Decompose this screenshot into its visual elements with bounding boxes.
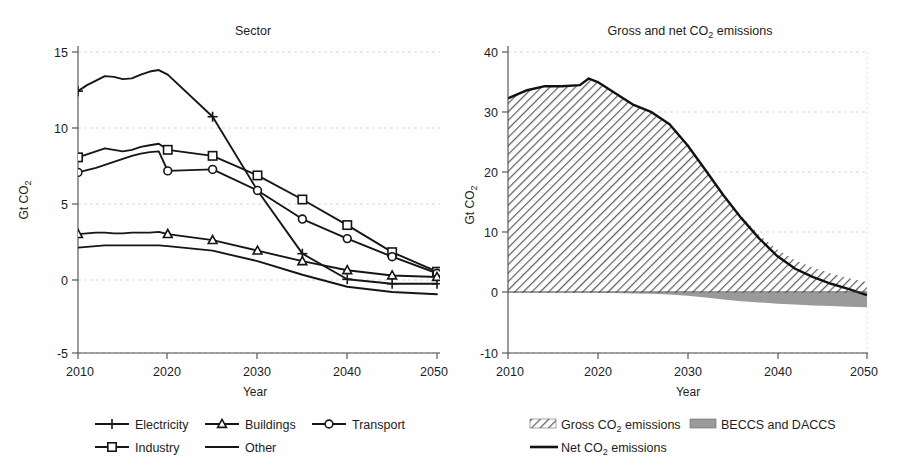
gross-net-x-axis-label: Year: [676, 385, 700, 399]
sector-marker-industry-2030: [253, 171, 261, 179]
sector-ytick-10: 10: [54, 122, 68, 136]
legend-marker-triangle: [218, 419, 227, 427]
sector-series-group: [73, 70, 442, 294]
sector-x-axis-label: Year: [243, 385, 267, 399]
sector-ytick-5: 5: [61, 198, 68, 212]
gross-net-chart-title: Gross and net CO2 emissions: [608, 24, 773, 40]
gross-net-series-group: [508, 78, 867, 307]
gross-net-title-pre: Gross and net CO: [608, 24, 709, 38]
gn-xtick-2020: 2020: [584, 365, 612, 379]
sector-marker-industry-2025: [208, 152, 216, 160]
sector-y-axis-label: Gt CO2: [17, 180, 33, 219]
sector-legend-label: Transport: [352, 418, 406, 432]
sector-marker-buildings-2040: [343, 266, 352, 274]
sector-legend: ElectricityBuildingsTransportIndustryOth…: [95, 418, 406, 455]
sector-marker-buildings-2020: [163, 230, 172, 238]
sector-ylabel-main: Gt CO: [17, 186, 31, 220]
sector-x-ticks: 2010 2020 2030 2040 2050: [66, 353, 448, 379]
sector-marker-buildings-2030: [253, 246, 262, 254]
legend-swatch-hatch: [530, 419, 556, 428]
sector-legend-label: Electricity: [135, 418, 189, 432]
sector-xtick-2020: 2020: [153, 365, 181, 379]
sector-marker-electricity-2010: [73, 86, 83, 96]
sector-line-transport: [78, 151, 437, 273]
gross-net-x-ticks: 2010 2020 2030 2040 2050: [496, 353, 878, 379]
svg-text:Gt CO2: Gt CO2: [17, 180, 33, 219]
sector-xtick-2030: 2030: [243, 365, 271, 379]
chart-panel-sector: Sector 15 10 5 0: [0, 0, 460, 468]
gn-legend-item-1[interactable]: BECCS and DACCS: [690, 418, 836, 432]
gn-ytick-neg10: -10: [480, 347, 498, 361]
gross-net-legend: Gross CO2 emissionsBECCS and DACCSNet CO…: [530, 418, 836, 457]
gn-ylabel-main: Gt CO: [463, 191, 477, 225]
sector-legend-label: Other: [245, 441, 276, 455]
gn-ytick-40: 40: [484, 46, 498, 60]
sector-marker-buildings-2035: [298, 257, 307, 265]
svg-text:Gt CO2: Gt CO2: [463, 185, 479, 224]
sector-xtick-2040: 2040: [333, 365, 361, 379]
gross-net-y-ticks: 40 30 20 10 0 -10: [480, 46, 508, 361]
gn-xtick-2010: 2010: [496, 365, 524, 379]
gn-xtick-2040: 2040: [764, 365, 792, 379]
gross-emissions-area: [508, 78, 867, 292]
sector-marker-industry-2035: [298, 195, 306, 203]
legend-marker-square: [108, 443, 116, 451]
gross-net-chart-svg: Gross and net CO2 emissions: [458, 0, 918, 468]
sector-marker-transport-2035: [298, 215, 306, 223]
sector-marker-transport-2030: [254, 187, 262, 195]
sector-marker-industry-2010: [74, 153, 82, 161]
sector-legend-item-electricity[interactable]: Electricity: [95, 418, 189, 432]
gn-ytick-20: 20: [484, 166, 498, 180]
gn-xtick-2030: 2030: [674, 365, 702, 379]
sector-ytick-15: 15: [54, 46, 68, 60]
sector-ytick-neg5: -5: [57, 347, 68, 361]
figure-root: Sector 15 10 5 0: [0, 0, 918, 468]
gn-legend-item-0[interactable]: Gross CO2 emissions: [530, 418, 681, 434]
sector-y-ticks: 15 10 5 0 -5: [54, 46, 78, 361]
sector-xtick-2010: 2010: [66, 365, 94, 379]
gn-legend-label: BECCS and DACCS: [721, 418, 836, 432]
gross-net-title-post: emissions: [713, 24, 772, 38]
gross-net-y-axis-label: Gt CO2: [463, 185, 479, 224]
sector-marker-transport-2045: [388, 253, 396, 261]
gn-xtick-2050: 2050: [850, 365, 878, 379]
sector-marker-transport-2010: [74, 169, 82, 177]
sector-xtick-2050: 2050: [420, 365, 448, 379]
sector-legend-item-other[interactable]: Other: [205, 441, 276, 455]
sector-chart-title: Sector: [235, 24, 271, 38]
gn-legend-item-2[interactable]: Net CO2 emissions: [530, 441, 667, 457]
legend-marker-plus: [107, 419, 117, 429]
sector-marker-buildings-2025: [208, 236, 217, 244]
legend-swatch-gray: [690, 419, 716, 428]
legend-marker-circle: [325, 420, 333, 428]
sector-legend-label: Buildings: [245, 418, 296, 432]
sector-marker-transport-2040: [343, 235, 351, 243]
sector-marker-buildings-2045: [388, 271, 397, 279]
sector-ylabel-sub: 2: [23, 180, 33, 185]
gn-ytick-10: 10: [484, 226, 498, 240]
sector-legend-item-transport[interactable]: Transport: [312, 418, 406, 432]
gn-ytick-30: 30: [484, 106, 498, 120]
sector-marker-buildings-2010: [74, 230, 83, 238]
sector-marker-industry-2040: [343, 221, 351, 229]
sector-marker-electricity-2045: [387, 279, 397, 289]
sector-marker-transport-2020: [164, 167, 172, 175]
gn-ylabel-sub: 2: [469, 185, 479, 190]
chart-panel-gross-net: Gross and net CO2 emissions: [458, 0, 918, 468]
sector-legend-item-buildings[interactable]: Buildings: [205, 418, 296, 432]
sector-marker-electricity-2040: [342, 274, 352, 284]
sector-marker-transport-2025: [209, 165, 217, 173]
sector-legend-label: Industry: [135, 441, 180, 455]
gn-legend-label: Net CO2 emissions: [561, 441, 667, 457]
sector-chart-svg: Sector 15 10 5 0: [0, 0, 460, 468]
sector-marker-industry-2020: [164, 146, 172, 154]
beccs-daccs-area: [508, 293, 867, 307]
gn-ytick-0: 0: [491, 286, 498, 300]
sector-gridlines: [78, 52, 440, 353]
sector-ytick-0: 0: [61, 274, 68, 288]
gn-legend-label: Gross CO2 emissions: [561, 418, 681, 434]
sector-legend-item-industry[interactable]: Industry: [95, 441, 180, 455]
